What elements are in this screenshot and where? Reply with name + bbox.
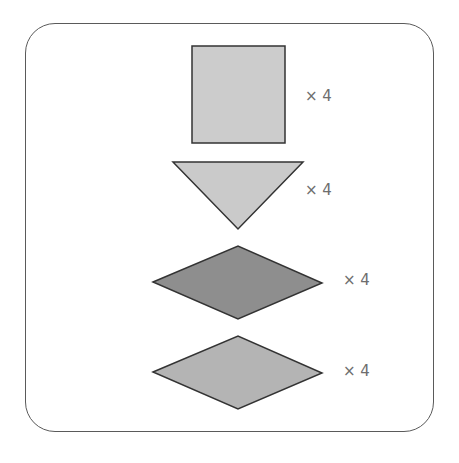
- square-count-label: × 4: [305, 89, 332, 104]
- triangle-shape: [173, 162, 303, 229]
- light-rhombus-count-label: × 4: [343, 364, 370, 379]
- shapes-canvas: [0, 0, 459, 463]
- dark-rhombus-count-label: × 4: [343, 273, 370, 288]
- square-shape: [192, 46, 285, 143]
- dark-rhombus-shape: [153, 246, 322, 319]
- light-rhombus-shape: [153, 336, 322, 409]
- triangle-count-label: × 4: [305, 183, 332, 198]
